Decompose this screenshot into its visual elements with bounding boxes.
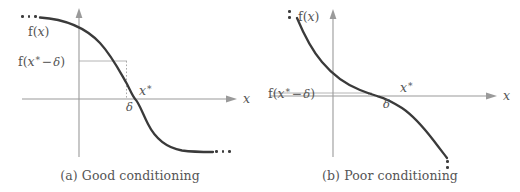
y-axis-arrowhead xyxy=(330,9,337,19)
caption-b: (b) Poor conditioning xyxy=(260,168,520,183)
curve-label-b: f(x) xyxy=(298,11,319,24)
x-axis-label-b: x xyxy=(503,90,510,103)
value-label-b: f(x∗−δ) xyxy=(268,86,315,101)
delta-label-b: δ xyxy=(383,99,390,111)
caption-a: (a) Good conditioning xyxy=(0,168,260,183)
y-axis-arrowhead xyxy=(76,8,83,18)
figure-container: f(x) f(x∗−δ) x∗ δ x (a) Good conditionin… xyxy=(0,0,520,192)
x-star-label-b: x∗ xyxy=(400,80,413,95)
x-axis-arrowhead xyxy=(486,92,497,99)
left-ellipsis-dots-a xyxy=(21,15,40,19)
value-label-a: f(x∗−δ) xyxy=(18,54,65,69)
right-ellipsis-dots-a xyxy=(215,150,234,154)
curve-good-conditioning xyxy=(40,18,213,153)
delta-label-a: δ xyxy=(126,102,133,114)
panel-good-conditioning: f(x) f(x∗−δ) x∗ δ x (a) Good conditionin… xyxy=(0,0,260,192)
x-axis-arrowhead xyxy=(226,95,237,102)
x-axis-label-a: x xyxy=(243,93,250,106)
panel-poor-conditioning: f(x) f(x∗−δ) x∗ δ x (b) Poor conditionin… xyxy=(260,0,520,192)
curve-label-a: f(x) xyxy=(28,26,49,39)
curve-poor-conditioning xyxy=(297,18,447,158)
top-ellipsis-dots-b xyxy=(288,10,298,24)
x-star-label-a: x∗ xyxy=(139,83,152,98)
